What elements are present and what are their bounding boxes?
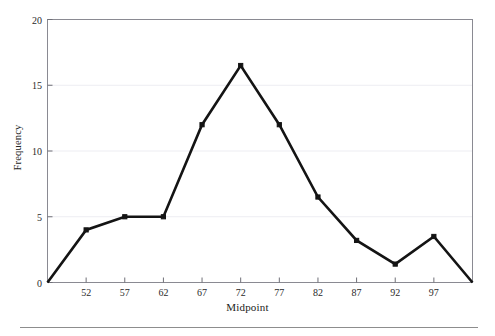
y-tick-label: 10: [20, 146, 42, 157]
x-tick-label: 97: [429, 287, 439, 298]
x-tick-label: 62: [158, 287, 168, 298]
x-tick-label: 92: [390, 287, 400, 298]
y-tick-label: 15: [20, 80, 42, 91]
x-axis-ticks: [86, 278, 434, 283]
frequency-polygon-chart: Frequency Midpoint 05101520 525762677277…: [0, 0, 495, 336]
x-tick-label: 77: [274, 287, 284, 298]
y-tick-label: 0: [20, 277, 42, 288]
x-tick-label: 67: [197, 287, 207, 298]
x-tick-label: 72: [236, 287, 246, 298]
y-tick-label: 5: [20, 211, 42, 222]
x-tick-label: 82: [313, 287, 323, 298]
plot-area: [0, 0, 495, 336]
y-tick-label: 20: [20, 14, 42, 25]
gridlines: [48, 85, 473, 217]
bottom-divider-rule: [20, 327, 478, 328]
y-axis-ticks: [48, 20, 53, 283]
x-tick-label: 57: [120, 287, 130, 298]
data-series-line: [48, 66, 473, 283]
x-tick-label: 52: [81, 287, 91, 298]
x-tick-label: 87: [352, 287, 362, 298]
x-axis-title: Midpoint: [0, 301, 495, 313]
